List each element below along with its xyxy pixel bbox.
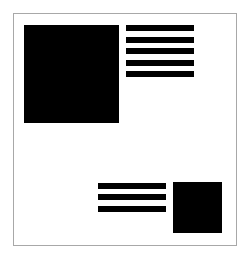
text-line <box>126 37 194 43</box>
text-line <box>98 206 166 212</box>
text-line <box>98 183 166 189</box>
text-line <box>126 48 194 54</box>
text-line <box>98 194 166 200</box>
text-line <box>126 71 194 77</box>
large-image-block <box>24 25 119 123</box>
small-image-block <box>173 182 222 233</box>
text-line <box>126 25 194 31</box>
text-line <box>126 60 194 66</box>
